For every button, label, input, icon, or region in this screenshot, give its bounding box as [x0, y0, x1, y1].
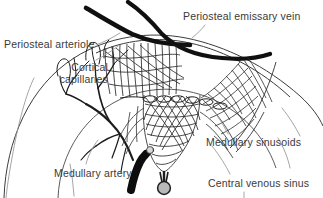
label-central-venous-sinus: Central venous sinus [208, 177, 309, 189]
label-cortical-capillaries: Cortical capillaries [36, 61, 108, 85]
medullary-sinusoids-column [143, 95, 200, 186]
label-medullary-artery: Medullary artery [54, 167, 132, 179]
anatomy-figure: Periosteal emissary vein Periosteal arte… [0, 0, 323, 198]
label-medullary-sinusoids: Medullary sinusoids [206, 136, 301, 148]
leader-cortical-left [6, 78, 34, 198]
periosteal-arteriole [86, 8, 190, 45]
medullary-artery [131, 147, 153, 190]
label-cortical-capillaries-line1: Cortical [36, 61, 108, 73]
label-periosteal-arteriole: Periosteal arteriole [4, 38, 95, 50]
label-cortical-capillaries-line2: capillaries [36, 73, 108, 85]
central-venous-sinus [158, 172, 171, 194]
label-periosteal-emissary-vein: Periosteal emissary vein [183, 10, 300, 22]
leader-emissary [192, 25, 205, 38]
diagram-canvas [0, 0, 323, 198]
leader-sinusoids-right [282, 108, 300, 136]
leader-arteriole [96, 33, 120, 45]
medullary-sinusoids-left [120, 106, 144, 154]
